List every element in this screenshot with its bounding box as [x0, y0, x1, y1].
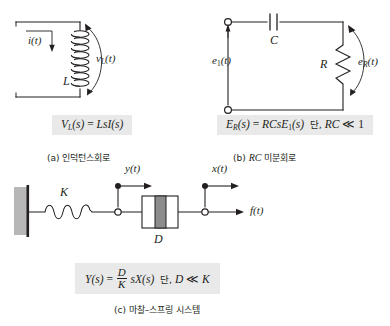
label-force: f(t) [250, 204, 263, 216]
label-resistor: R [320, 57, 327, 72]
panel-inductance-circuit: i(t) L vL(t) VL(s) = LsI(s) (a) 인덕턴스회로 [0, 0, 195, 165]
label-capacitor: C [270, 33, 278, 48]
fraction-d-over-k: DK [117, 267, 127, 290]
arrow-x-head [231, 183, 239, 189]
formula-box-a: VL(s) = LsI(s) [52, 114, 132, 135]
formula-box-b: ER(s) = RCsE1(s) 단, RC ≪ 1 [217, 114, 373, 135]
panel-friction-spring-system: K D y(t) x(t) f(t) [0, 165, 390, 326]
arrow-y-head [144, 183, 152, 189]
label-voltage: vL(t) [96, 52, 115, 66]
capacitor-icon [270, 14, 277, 31]
terminal-bottom [225, 107, 232, 114]
label-source: e1(t) [212, 54, 231, 68]
wall-face [27, 185, 30, 237]
formula-a: VL(s) = LsI(s) [52, 115, 132, 135]
label-displacement-y: y(t) [125, 162, 140, 174]
panel-rc-differentiator: e1(t) C R eR(t) ER(s) = RCsE1(s) 단, RC ≪… [195, 0, 390, 165]
formula-box-c: Y(s) = DK sX(s) 단, D ≪ K [75, 263, 220, 294]
label-displacement-x: x(t) [212, 162, 227, 174]
formula-c: Y(s) = DK sX(s) 단, D ≪ K [75, 263, 220, 294]
label-inductor: L [63, 74, 70, 89]
node-y [115, 209, 121, 215]
label-current: i(t) [28, 34, 41, 46]
label-spring: K [60, 185, 68, 200]
label-damper: D [154, 232, 163, 247]
label-output-voltage: eR(t) [358, 55, 378, 69]
caption-c: (c) 마찰–스프링 시스템 [114, 303, 200, 316]
arrow-force-head [236, 209, 244, 215]
caption-a: (a) 인덕턴스회로 [47, 151, 110, 164]
node-x [202, 209, 208, 215]
spring-icon [45, 205, 92, 219]
mechanical-system-drawing [0, 165, 390, 265]
output-arc-arrowhead-top [348, 25, 356, 33]
formula-b: ER(s) = RCsE1(s) 단, RC ≪ 1 [217, 115, 373, 135]
caption-b: (b) RC 미분회로 [233, 151, 296, 164]
damper-icon [142, 196, 178, 228]
resistor-icon [336, 45, 350, 84]
wall-block [14, 187, 28, 235]
current-arrowhead [49, 45, 54, 52]
